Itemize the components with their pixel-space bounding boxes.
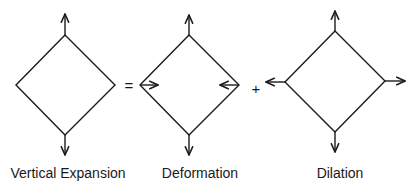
vertical-expansion-figure [16, 14, 115, 155]
dilation-figure [266, 11, 405, 152]
vertical-expansion-diamond [16, 35, 115, 135]
plus-sign: + [252, 80, 261, 97]
deformation-label: Deformation [162, 165, 238, 181]
dilation-diamond [285, 31, 385, 132]
equals-sign: = [125, 77, 134, 94]
dilation-label: Dilation [317, 165, 364, 181]
vertical-expansion-label: Vertical Expansion [10, 165, 125, 181]
diagram-canvas [0, 0, 419, 188]
deformation-figure [140, 15, 239, 155]
